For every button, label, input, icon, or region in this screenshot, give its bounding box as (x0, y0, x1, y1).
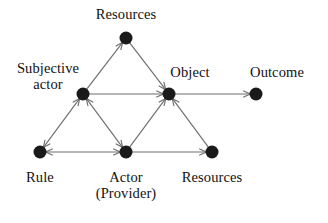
node-label-subjective_actor: Subjective actor (17, 60, 79, 92)
edge-subjective-actor-to-rule (43, 98, 79, 147)
node-resources_top[interactable] (120, 32, 133, 45)
node-label-outcome: Outcome (250, 64, 304, 80)
node-label-resources_top: Resources (96, 6, 157, 22)
edge-subjective-actor-to-object (89, 91, 164, 97)
node-object[interactable] (163, 88, 176, 101)
diagram-edges-layer (0, 0, 328, 223)
node-outcome[interactable] (250, 88, 263, 101)
node-rule[interactable] (34, 146, 47, 159)
edge-subjective-actor-to-actor (86, 98, 122, 147)
edge-actor-to-object (129, 98, 165, 147)
edge-subjective-actor-to-resources-top (86, 42, 122, 89)
node-label-rule: Rule (26, 169, 54, 185)
edge-actor-to-resources-bottom (132, 149, 207, 155)
edge-rule-to-actor (46, 149, 121, 155)
edge-object-to-outcome (175, 91, 251, 97)
node-resources_bottom[interactable] (206, 146, 219, 159)
node-label-object: Object (170, 64, 209, 80)
edge-resources-bottom-to-object (172, 98, 208, 147)
diagram-canvas: ResourcesSubjective actorObjectOutcomeRu… (0, 0, 328, 223)
node-actor_provider[interactable] (120, 146, 133, 159)
node-label-actor_provider: Actor (Provider) (96, 169, 157, 201)
edge-resources-top-to-object (129, 42, 165, 89)
node-label-resources_bottom: Resources (182, 169, 243, 185)
